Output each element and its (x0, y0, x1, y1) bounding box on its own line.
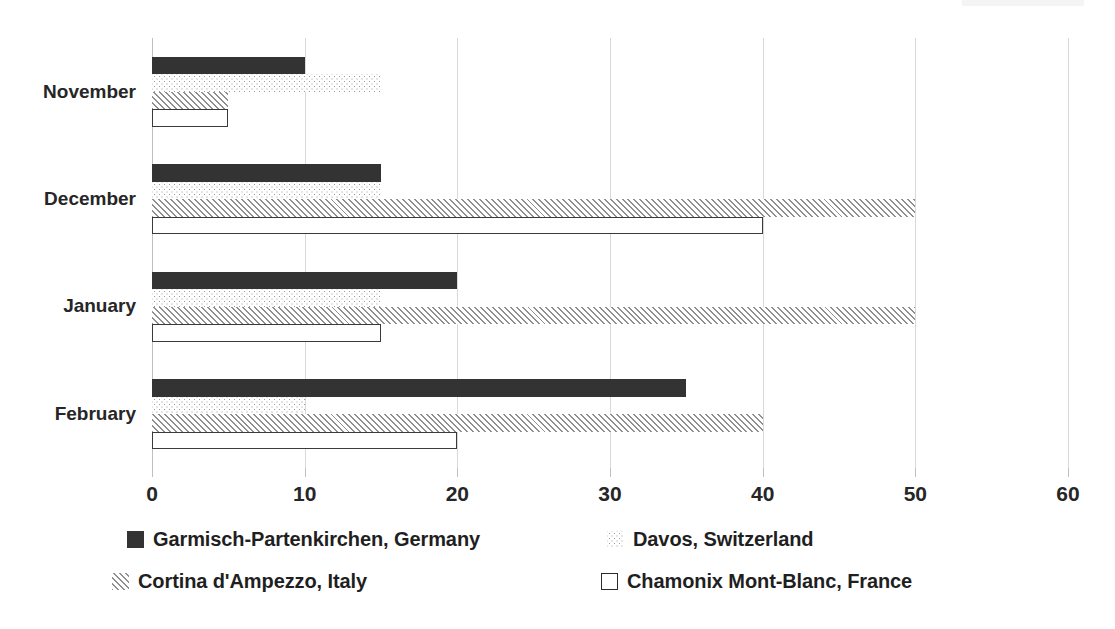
category-label-november: November (43, 81, 136, 103)
legend-label-chamonix: Chamonix Mont-Blanc, France (627, 570, 912, 593)
x-tick-label-40: 40 (751, 482, 774, 506)
bar-row (152, 432, 1068, 450)
bar[interactable] (152, 109, 228, 127)
plot-area (152, 38, 1068, 468)
bar-row (152, 272, 1068, 290)
gridline-60 (1068, 38, 1069, 468)
bar-row (152, 92, 1068, 110)
bar-row (152, 379, 1068, 397)
bar-row (152, 57, 1068, 75)
bar[interactable] (152, 379, 686, 397)
x-tick-mark-60 (1068, 468, 1069, 477)
x-axis: 0102030405060 (0, 468, 1115, 508)
bar-row (152, 182, 1068, 200)
top-crop-artifact (962, 0, 1084, 6)
legend-label-davos: Davos, Switzerland (633, 528, 813, 551)
bar-group (152, 379, 1068, 449)
bar-row (152, 414, 1068, 432)
legend-item-chamonix[interactable]: Chamonix Mont-Blanc, France (601, 570, 912, 593)
bar[interactable] (152, 307, 915, 325)
x-tick-label-30: 30 (598, 482, 621, 506)
chart-legend: Garmisch-Partenkirchen, Germany Davos, S… (0, 520, 1115, 615)
bar-row (152, 74, 1068, 92)
bar-row (152, 217, 1068, 235)
category-label-february: February (55, 403, 136, 425)
bar[interactable] (152, 432, 457, 450)
bar[interactable] (152, 324, 381, 342)
bar-row (152, 164, 1068, 182)
bar[interactable] (152, 182, 381, 200)
legend-swatch-cortina-icon (112, 573, 129, 590)
bar-row (152, 324, 1068, 342)
legend-swatch-chamonix-icon (601, 573, 618, 590)
legend-label-cortina: Cortina d'Ampezzo, Italy (138, 570, 367, 593)
bar[interactable] (152, 74, 381, 92)
bar[interactable] (152, 92, 228, 110)
bar-row (152, 199, 1068, 217)
legend-swatch-garmisch-icon (127, 531, 144, 548)
bar[interactable] (152, 217, 763, 235)
legend-label-garmisch: Garmisch-Partenkirchen, Germany (153, 528, 480, 551)
x-tick-mark-20 (457, 468, 458, 477)
legend-swatch-davos-icon (607, 531, 624, 548)
bar-row (152, 289, 1068, 307)
bar-chart: November December January February 01020… (0, 0, 1115, 629)
legend-item-davos[interactable]: Davos, Switzerland (607, 528, 813, 551)
x-tick-mark-50 (915, 468, 916, 477)
bar-group (152, 272, 1068, 342)
bar-row (152, 109, 1068, 127)
category-label-january: January (63, 295, 136, 317)
x-tick-label-50: 50 (904, 482, 927, 506)
x-tick-label-10: 10 (293, 482, 316, 506)
x-tick-label-20: 20 (446, 482, 469, 506)
x-tick-label-0: 0 (146, 482, 158, 506)
legend-item-cortina[interactable]: Cortina d'Ampezzo, Italy (112, 570, 367, 593)
x-tick-mark-40 (763, 468, 764, 477)
legend-item-garmisch[interactable]: Garmisch-Partenkirchen, Germany (127, 528, 480, 551)
bar-row (152, 307, 1068, 325)
bar[interactable] (152, 289, 381, 307)
x-tick-mark-30 (610, 468, 611, 477)
bar[interactable] (152, 57, 305, 75)
x-tick-mark-0 (152, 468, 153, 477)
bar[interactable] (152, 414, 763, 432)
bar[interactable] (152, 272, 457, 290)
bar-group (152, 164, 1068, 234)
category-label-december: December (44, 188, 136, 210)
bar-group (152, 57, 1068, 127)
bar-row (152, 397, 1068, 415)
bar[interactable] (152, 397, 305, 415)
x-tick-mark-10 (305, 468, 306, 477)
bar[interactable] (152, 199, 915, 217)
x-tick-label-60: 60 (1056, 482, 1079, 506)
bar[interactable] (152, 164, 381, 182)
